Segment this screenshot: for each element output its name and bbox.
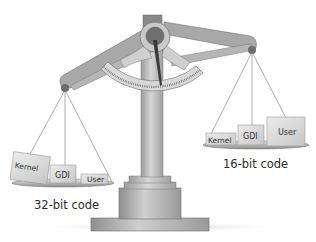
right-box-kernel: Kernel (206, 133, 236, 145)
left-pan-caption: 32-bit code (34, 198, 99, 212)
left-box-gdi: GDI (50, 165, 76, 183)
right-pan: Kernel GDI User (203, 117, 309, 149)
right-box-gdi-label: GDI (243, 132, 258, 141)
right-pan-caption: 16-bit code (223, 157, 288, 171)
right-box-user-label: User (278, 128, 297, 137)
left-pan: Kernel GDI User (10, 152, 114, 187)
left-box-kernel: Kernel (10, 152, 51, 185)
right-box-kernel-label: Kernel (208, 136, 232, 145)
left-box-gdi-label: GDI (55, 171, 70, 180)
right-box-user: User (267, 117, 305, 146)
left-box-user: User (81, 174, 108, 184)
right-box-gdi: GDI (238, 125, 264, 145)
left-box-user-label: User (87, 175, 105, 184)
